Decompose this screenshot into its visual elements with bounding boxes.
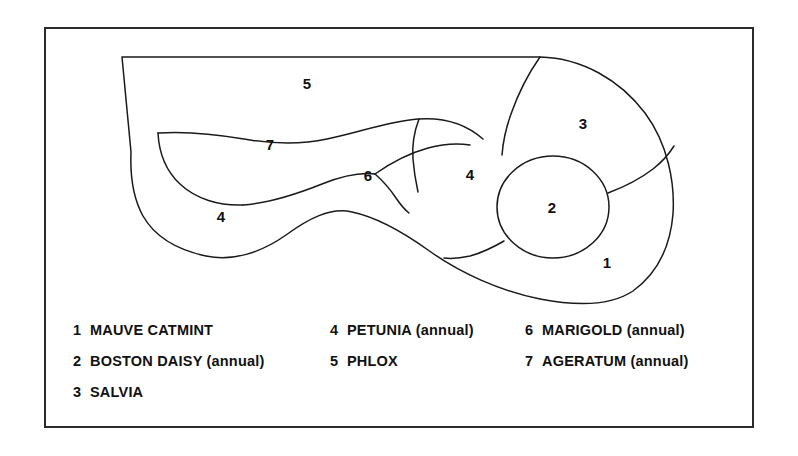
legend-column-1: 1 MAUVE CATMINT 2 BOSTON DAISY (annual) … xyxy=(73,322,264,400)
legend-item-number: 1 xyxy=(73,322,81,338)
legend-item-number: 5 xyxy=(330,353,338,369)
legend-item-label: BOSTON DAISY (annual) xyxy=(90,353,264,369)
region-label-1: 1 xyxy=(603,254,611,271)
region-label-5: 5 xyxy=(303,75,311,92)
legend-item-label: PETUNIA (annual) xyxy=(347,322,474,338)
region-label-6: 6 xyxy=(364,167,372,184)
legend-item-label: MARIGOLD (annual) xyxy=(542,322,685,338)
region-label-3: 3 xyxy=(579,115,587,132)
legend-item-label: AGERATUM (annual) xyxy=(542,353,689,369)
region-label-7: 7 xyxy=(266,136,274,153)
legend-column-2: 4 PETUNIA (annual) 5 PHLOX xyxy=(330,322,474,369)
region-label-4-right: 4 xyxy=(466,166,475,183)
legend-item-label: SALVIA xyxy=(90,384,144,400)
region-label-2: 2 xyxy=(548,199,556,216)
garden-bed-plan: 1 2 3 4 4 5 6 7 1 MAUVE CATMINT 2 BOSTON… xyxy=(0,0,798,456)
legend-column-3: 6 MARIGOLD (annual) 7 AGERATUM (annual) xyxy=(525,322,689,369)
legend-item-number: 4 xyxy=(330,322,338,338)
legend-item-label: MAUVE CATMINT xyxy=(90,322,213,338)
legend-item-number: 7 xyxy=(525,353,533,369)
region-label-4-left: 4 xyxy=(217,208,226,225)
legend-item-number: 3 xyxy=(73,384,81,400)
legend-item-number: 2 xyxy=(73,353,81,369)
page-root: 1 2 3 4 4 5 6 7 1 MAUVE CATMINT 2 BOSTON… xyxy=(0,0,798,456)
legend-item-number: 6 xyxy=(525,322,533,338)
legend-item-label: PHLOX xyxy=(347,353,398,369)
legend: 1 MAUVE CATMINT 2 BOSTON DAISY (annual) … xyxy=(73,322,689,400)
